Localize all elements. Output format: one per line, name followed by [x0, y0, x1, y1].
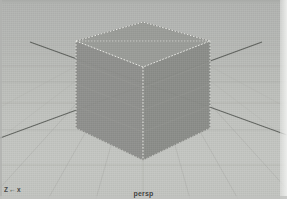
- maya-perspective-viewport[interactable]: Z ← x persp: [0, 0, 287, 199]
- viewport-border-left: [0, 0, 2, 199]
- camera-name-label: persp: [0, 190, 287, 197]
- viewport-border-right: [280, 0, 287, 199]
- viewport-border-top: [0, 0, 287, 3]
- cube-object[interactable]: [0, 0, 287, 199]
